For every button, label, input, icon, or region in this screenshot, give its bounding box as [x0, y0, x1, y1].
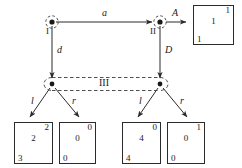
node-I-dot[interactable] [49, 19, 54, 24]
payoff-5-top-right: 1 [197, 123, 202, 132]
node-II-dot[interactable] [157, 19, 162, 24]
payoff-5-bottom-left: 0 [171, 154, 176, 163]
payoff-box-3: 0 0 0 [59, 122, 96, 164]
payoff-box-5: 1 0 0 [167, 122, 205, 164]
payoff-box-4: 0 4 4 [122, 122, 161, 164]
node-label-I: I [46, 27, 49, 36]
payoff-2-bottom-left: 3 [18, 154, 23, 163]
edge-label-l-left: l [31, 96, 34, 106]
payoff-3-bottom-left: 0 [63, 154, 68, 163]
payoff-1-bottom-left: 1 [197, 35, 202, 44]
payoff-3-center: 0 [75, 134, 80, 143]
payoff-2-top-right: 2 [45, 123, 50, 132]
payoff-1-center: 1 [211, 17, 216, 26]
payoff-2-center: 2 [31, 134, 36, 143]
payoff-4-center: 4 [139, 134, 144, 143]
node-III-left-dot[interactable] [50, 82, 55, 87]
game-tree-diagram: I II a A d D l r l r III 1 1 1 2 2 3 0 0… [0, 0, 242, 168]
payoff-4-top-right: 0 [153, 123, 158, 132]
edge-label-r-left: r [72, 96, 76, 106]
payoff-box-1: 1 1 1 [193, 5, 234, 45]
edge-label-A: A [172, 8, 178, 18]
payoff-4-bottom-left: 4 [126, 154, 131, 163]
node-III-right-dot[interactable] [158, 82, 163, 87]
edge-label-l-right: l [139, 96, 142, 106]
edge-label-a: a [102, 8, 107, 18]
information-set-label-III: III [99, 78, 109, 88]
edge-label-r-right: r [180, 96, 184, 106]
payoff-5-center: 0 [184, 134, 189, 143]
node-label-II: II [150, 27, 156, 36]
edge-label-D: D [165, 45, 172, 55]
payoff-box-2: 2 2 3 [14, 122, 53, 164]
edge-label-d: d [57, 45, 62, 55]
payoff-1-top-right: 1 [226, 6, 231, 15]
payoff-3-top-right: 0 [88, 123, 93, 132]
